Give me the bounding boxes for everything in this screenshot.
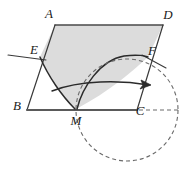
vertex-label-M: M bbox=[70, 113, 83, 128]
vertex-label-D: D bbox=[162, 7, 173, 22]
vertex-label-E: E bbox=[29, 42, 38, 57]
figure-canvas: A D E F B C M bbox=[0, 0, 186, 173]
vertex-label-A: A bbox=[44, 6, 53, 21]
vertex-label-B: B bbox=[13, 98, 21, 113]
vertex-label-F: F bbox=[147, 43, 157, 58]
vertex-label-C: C bbox=[136, 103, 145, 118]
geometry-figure: A D E F B C M bbox=[0, 0, 186, 173]
